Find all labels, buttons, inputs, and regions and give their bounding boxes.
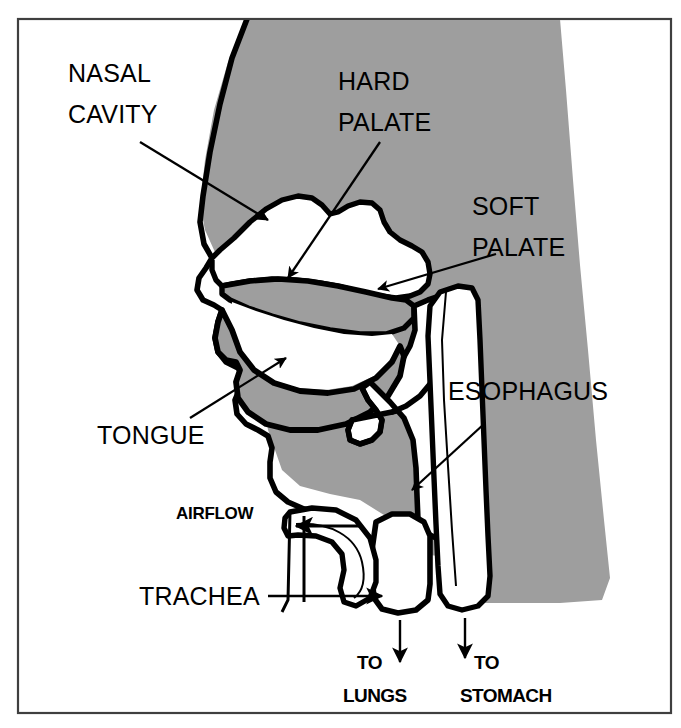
label-hard-palate-line2: PALATE — [338, 108, 431, 136]
label-soft-palate-line1: SOFT — [472, 192, 539, 220]
label-to-lungs-line2: LUNGS — [343, 685, 407, 706]
label-nasal-cavity-line2: CAVITY — [68, 100, 158, 128]
trachea-tube — [372, 514, 430, 613]
label-trachea: TRACHEA — [139, 582, 260, 610]
label-tongue: TONGUE — [97, 421, 205, 449]
diagram-canvas: NASAL CAVITY HARD PALATE SOFT PALATE ESO… — [0, 0, 681, 728]
label-to-stomach-line1: TO — [474, 652, 499, 673]
anatomical-diagram-figure: NASAL CAVITY HARD PALATE SOFT PALATE ESO… — [0, 0, 681, 728]
label-airflow: AIRFLOW — [176, 504, 254, 523]
label-to-lungs-line1: TO — [357, 652, 382, 673]
label-to-stomach-line2: STOMACH — [460, 685, 552, 706]
label-soft-palate-line2: PALATE — [472, 233, 565, 261]
label-hard-palate-line1: HARD — [338, 67, 410, 95]
label-nasal-cavity-line1: NASAL — [68, 59, 151, 87]
label-esophagus: ESOPHAGUS — [448, 377, 608, 405]
